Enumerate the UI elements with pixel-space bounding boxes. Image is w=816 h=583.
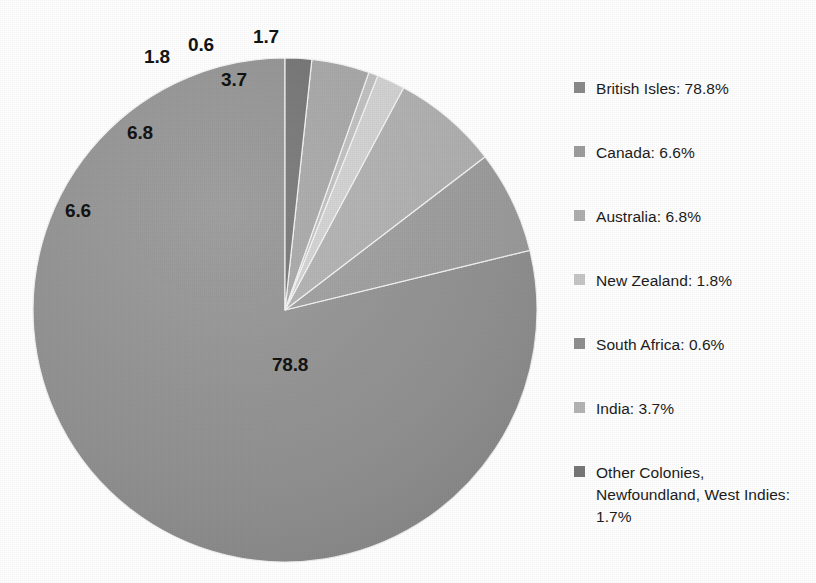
legend-swatch-icon-new-zealand (574, 274, 585, 285)
legend-item-new-zealand[interactable]: New Zealand: 1.8% (574, 270, 812, 292)
legend-swatch-icon-australia (574, 210, 585, 221)
slice-value-label-south-africa: 0.6 (188, 34, 214, 56)
slice-value-label-new-zealand: 1.8 (144, 46, 170, 68)
legend-item-other-colonies[interactable]: Other Colonies, Newfoundland, West Indie… (574, 462, 812, 528)
legend-label-new-zealand: New Zealand: 1.8% (596, 270, 732, 292)
legend-label-other-colonies: Other Colonies, Newfoundland, West Indie… (596, 462, 812, 528)
pie-chart-area: 78.86.66.81.80.63.71.7 (0, 0, 560, 583)
legend-label-british-isles: British Isles: 78.8% (596, 78, 729, 100)
legend-label-india: India: 3.7% (596, 398, 674, 420)
slice-value-label-other-colonies: 1.7 (253, 26, 279, 48)
pie-chart-svg (0, 0, 560, 583)
legend-item-canada[interactable]: Canada: 6.6% (574, 142, 812, 164)
chart-legend: British Isles: 78.8%Canada: 6.6%Australi… (574, 0, 816, 583)
slice-value-label-india: 3.7 (221, 69, 247, 91)
slice-value-label-canada: 6.6 (65, 200, 91, 222)
legend-item-india[interactable]: India: 3.7% (574, 398, 812, 420)
legend-item-british-isles[interactable]: British Isles: 78.8% (574, 78, 812, 100)
legend-item-australia[interactable]: Australia: 6.8% (574, 206, 812, 228)
legend-label-canada: Canada: 6.6% (596, 142, 695, 164)
legend-swatch-icon-south-africa (574, 338, 585, 349)
slice-value-label-british-isles: 78.8 (272, 354, 308, 376)
legend-swatch-icon-british-isles (574, 82, 585, 93)
legend-item-south-africa[interactable]: South Africa: 0.6% (574, 334, 812, 356)
slice-value-label-australia: 6.8 (127, 122, 153, 144)
legend-swatch-icon-canada (574, 146, 585, 157)
pie-sheen (33, 58, 537, 562)
legend-swatch-icon-other-colonies (574, 466, 585, 477)
legend-label-south-africa: South Africa: 0.6% (596, 334, 724, 356)
legend-label-australia: Australia: 6.8% (596, 206, 701, 228)
legend-swatch-icon-india (574, 402, 585, 413)
